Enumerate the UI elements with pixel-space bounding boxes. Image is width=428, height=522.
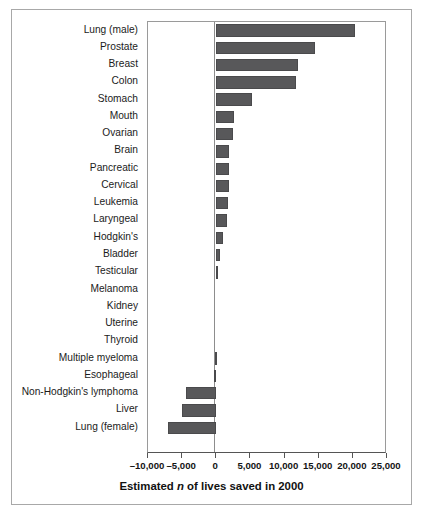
category-label-text: Pancreatic [90,163,138,173]
bar-12 [216,232,223,244]
category-label-text: Bladder [103,249,138,259]
bar-row [148,212,385,229]
category-label-text: Thyroid [104,335,138,345]
x-axis-title: Estimated n of lives saved in 2000 [12,480,411,492]
bar-row [148,108,385,125]
category-label-20: Esophageal [12,366,143,383]
bar-1 [216,42,314,54]
bar-3 [216,76,296,88]
category-label-text: Ovarian [102,128,138,138]
bar-10 [216,197,228,209]
bar-row [148,57,385,74]
category-label-8: Pancreatic [12,159,143,176]
bar-row [148,385,385,402]
category-label-12: Hodgkin's [12,228,143,245]
plot-area [147,21,386,453]
category-label-0: Lung (male) [12,21,143,38]
category-label-5: Mouth [12,107,143,124]
bar-22 [182,404,216,416]
x-tick-6 [352,453,353,458]
category-label-2: Breast [12,56,143,73]
category-label-text: Laryngeal [93,214,138,224]
bar-row [148,91,385,108]
category-label-23: Lung (female) [12,418,143,435]
bar-0 [216,24,355,36]
bar-row [148,177,385,194]
category-label-text: Prostate [100,42,138,52]
bar-row [148,419,385,436]
bar-20 [214,370,216,382]
category-label-10: Leukemia [12,194,143,211]
category-label-text: Liver [116,404,138,414]
category-label-text: Lung (male) [84,25,138,35]
x-tick-0 [147,453,148,458]
bar-row [148,74,385,91]
bar-row [148,39,385,56]
x-axis-tick-labels: –10,000–5,00005,00010,00015,00020,00025,… [147,459,386,473]
bar-row [148,333,385,350]
bar-row [148,195,385,212]
x-tick-label-3: 5,000 [237,459,261,473]
category-label-text: Mouth [110,111,138,121]
x-tick-4 [284,453,285,458]
category-label-text: Non-Hodgkin's lymphoma [22,387,138,397]
bar-series [148,22,385,452]
x-tick-label-6: 20,000 [337,459,366,473]
bar-row [148,264,385,281]
x-axis-ticks [147,453,386,458]
bar-6 [216,128,232,140]
category-label-17: Uterine [12,315,143,332]
category-label-7: Brain [12,142,143,159]
category-label-text: Testicular [95,266,138,276]
category-label-22: Liver [12,401,143,418]
category-label-11: Laryngeal [12,211,143,228]
x-axis-title-prefix: Estimated [119,480,177,492]
category-label-text: Multiple myeloma [59,353,138,363]
category-label-14: Testicular [12,263,143,280]
bar-9 [216,180,228,192]
x-axis-title-italic-n: n [177,480,184,492]
bar-row [148,316,385,333]
x-tick-3 [249,453,250,458]
bar-23 [168,422,216,434]
category-label-3: Colon [12,73,143,90]
x-tick-5 [318,453,319,458]
category-label-text: Kidney [107,301,138,311]
x-tick-label-5: 15,000 [303,459,332,473]
category-label-16: Kidney [12,297,143,314]
bar-13 [216,249,220,261]
x-tick-label-4: 10,000 [269,459,298,473]
bar-14 [216,266,218,278]
bar-7 [216,145,229,157]
category-label-1: Prostate [12,38,143,55]
x-tick-1 [181,453,182,458]
category-label-text: Breast [109,59,138,69]
category-label-text: Colon [111,76,138,86]
category-label-text: Lung (female) [75,422,138,432]
x-tick-label-1: –5,000 [166,459,195,473]
bar-5 [216,111,234,123]
bar-21 [186,387,217,399]
category-label-6: Ovarian [12,125,143,142]
category-label-text: Esophageal [84,370,138,380]
x-axis-title-suffix: of lives saved in 2000 [184,480,304,492]
bar-19 [215,352,217,364]
bar-4 [216,93,252,105]
category-label-18: Thyroid [12,332,143,349]
x-tick-2 [215,453,216,458]
category-label-text: Stomach [98,94,138,104]
x-tick-label-2: 0 [213,459,218,473]
bar-8 [216,163,228,175]
bar-row [148,246,385,263]
category-label-text: Cervical [101,180,138,190]
category-label-13: Bladder [12,245,143,262]
bar-row [148,143,385,160]
bar-row [148,22,385,39]
bar-row [148,281,385,298]
bar-row [148,229,385,246]
category-label-15: Melanoma [12,280,143,297]
category-label-21: Non-Hodgkin's lymphoma [12,384,143,401]
x-tick-7 [386,453,387,458]
bar-row [148,160,385,177]
bar-row [148,402,385,419]
